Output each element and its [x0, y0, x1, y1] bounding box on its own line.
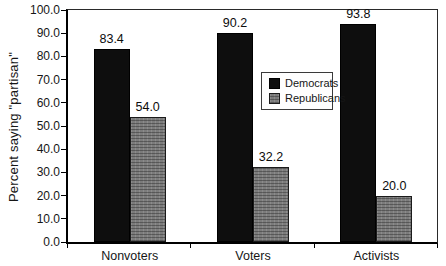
bar-value-label: 93.8 — [336, 8, 380, 21]
y-axis-tick — [61, 102, 66, 103]
democrats-swatch-icon — [269, 78, 280, 89]
bar-democrats — [217, 33, 253, 242]
bar-value-label: 54.0 — [126, 101, 170, 114]
bar-value-label: 20.0 — [372, 180, 416, 193]
bar-republicans — [130, 117, 166, 242]
bar-value-label: 83.4 — [90, 33, 134, 46]
x-axis-tick — [190, 244, 191, 248]
x-axis-tick — [314, 244, 315, 248]
y-axis-tick-label: 80.0 — [16, 50, 60, 62]
legend-item-republicans: Republicans — [269, 92, 326, 104]
bar-democrats — [94, 49, 130, 242]
y-axis-tick — [61, 79, 66, 80]
legend-label-republicans: Republicans — [285, 92, 346, 104]
y-axis-tick — [61, 56, 66, 57]
x-axis-tick — [437, 244, 438, 248]
y-axis-tick-label: 0.0 — [16, 236, 60, 248]
bar-value-label: 90.2 — [213, 17, 257, 30]
category-label: Nonvoters — [70, 249, 190, 263]
y-axis-tick — [61, 10, 66, 11]
y-axis-tick-label: 70.0 — [16, 74, 60, 86]
y-axis-tick — [61, 126, 66, 127]
bar-chart: Percent saying "partisan" 100.090.080.07… — [0, 0, 446, 266]
legend: Democrats Republicans — [261, 72, 333, 110]
y-axis-tick-label: 40.0 — [16, 143, 60, 155]
y-axis-tick-label: 60.0 — [16, 97, 60, 109]
y-axis-tick-label: 100.0 — [16, 4, 60, 16]
y-axis-tick-label: 90.0 — [16, 27, 60, 39]
bar-republicans — [253, 167, 289, 242]
y-axis-tick-label: 10.0 — [16, 213, 60, 225]
bar-republicans — [376, 196, 412, 242]
legend-label-democrats: Democrats — [285, 77, 338, 89]
y-axis-tick — [61, 33, 66, 34]
category-label: Voters — [193, 249, 313, 263]
y-axis-tick — [61, 195, 66, 196]
x-axis-tick — [67, 244, 68, 248]
bar-value-label: 32.2 — [249, 151, 293, 164]
y-axis-tick-label: 30.0 — [16, 166, 60, 178]
y-axis-tick — [61, 242, 66, 243]
y-axis-tick-label: 50.0 — [16, 120, 60, 132]
republicans-swatch-icon — [269, 93, 280, 104]
bar-democrats — [340, 24, 376, 242]
y-axis-tick — [61, 149, 66, 150]
legend-item-democrats: Democrats — [269, 77, 326, 89]
y-axis-tick-label: 20.0 — [16, 190, 60, 202]
y-axis-tick — [61, 218, 66, 219]
category-label: Activists — [316, 249, 436, 263]
y-axis-tick — [61, 172, 66, 173]
